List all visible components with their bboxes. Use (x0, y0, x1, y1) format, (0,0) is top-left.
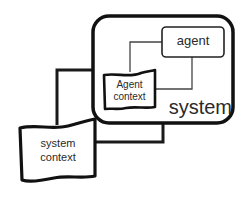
system-context-line2: context (22, 150, 94, 164)
edge-system-to-system-context-bottom (95, 124, 163, 142)
system-context-label: system context (22, 136, 94, 164)
agent-context-label: Agent context (104, 79, 155, 103)
edge-system-to-system-context-left (57, 70, 92, 125)
agent-label: agent (162, 33, 224, 49)
system-label: system (168, 97, 232, 117)
system-context-diagram: system agent Agent context system contex… (0, 0, 249, 198)
agent-context-line1: Agent (104, 79, 155, 91)
agent-context-line2: context (104, 91, 155, 103)
system-context-line1: system (22, 136, 94, 150)
